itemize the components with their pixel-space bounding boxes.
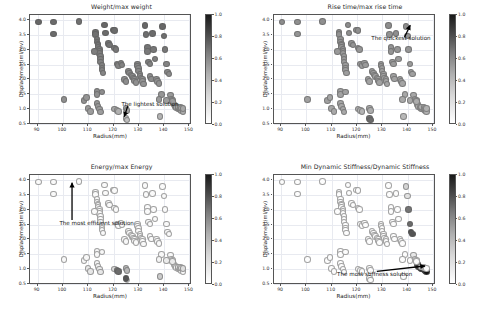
- annotation-label: The lightest solution: [121, 101, 178, 107]
- annotation-label: The quickest solution: [371, 35, 430, 41]
- panel-weight: Weight/max weight901001101201301401500.5…: [0, 0, 243, 160]
- annotation-arrow: [0, 0, 244, 160]
- annotation-label: The most stiffness solution: [337, 271, 412, 277]
- annotation-arrow: [244, 160, 487, 320]
- panel-energy: Energy/max Energy901001101201301401500.5…: [0, 160, 243, 320]
- annotation-label: The most efficient solution: [59, 220, 134, 226]
- panel-rise_time: Rise time/max rise time90100110120130140…: [244, 0, 487, 160]
- annotation-arrow: [0, 160, 244, 320]
- figure-canvas: Weight/max weight901001101201301401500.5…: [0, 0, 487, 320]
- panel-dynamic_stiffness: Min Dynamic Stiffness/Dynamic Stiffness9…: [244, 160, 487, 320]
- annotation-arrow: [244, 0, 487, 160]
